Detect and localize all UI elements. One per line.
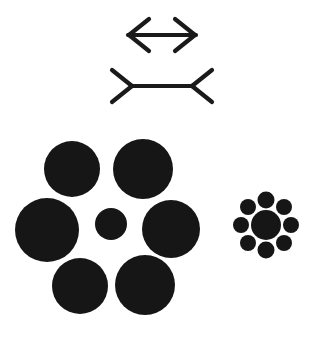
inducer-circle-small-ne: [276, 199, 292, 215]
inducer-circle-small-e: [283, 217, 299, 233]
inducer-circle-small-s: [258, 242, 275, 259]
inducer-circle-large-middle-right: [142, 200, 200, 258]
illusion-figure-canvas: [0, 0, 311, 338]
inducer-circle-small-w: [233, 217, 249, 233]
inducer-circle-small-sw: [240, 235, 256, 251]
inducer-circle-small-n: [258, 192, 275, 209]
ebbinghaus-cluster-small-inducers: [233, 192, 299, 259]
inducer-circle-large-top-right: [113, 139, 173, 199]
target-circle-surrounded-by-small: [251, 210, 281, 240]
inducer-circle-large-bottom-left: [52, 258, 108, 314]
inducer-circle-small-nw: [240, 199, 256, 215]
inducer-circle-large-top-left: [44, 141, 100, 197]
target-circle-surrounded-by-large: [95, 208, 127, 240]
illusion-figure-svg: [0, 0, 311, 338]
inducer-circle-large-middle-left: [15, 198, 79, 262]
inducer-circle-small-se: [276, 235, 292, 251]
inducer-circle-large-bottom-right: [115, 255, 175, 315]
